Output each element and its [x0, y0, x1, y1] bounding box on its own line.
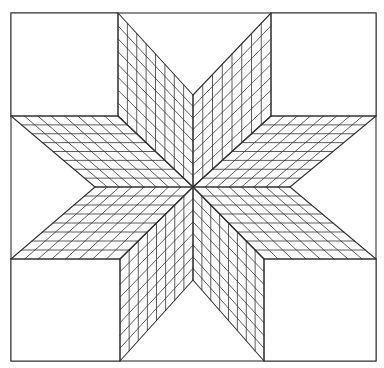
diamond-top-left-point [118, 13, 193, 187]
diamond-bottom-right-point [193, 187, 264, 361]
corner-square-top-left [11, 13, 118, 116]
diamond-right-lower-point [193, 187, 376, 259]
corner-square-bottom-left [11, 259, 120, 361]
diamond-right-upper-point [193, 116, 376, 187]
star-quilt-drawing [0, 0, 384, 368]
corner-square-bottom-right [264, 259, 376, 361]
diamond-bottom-left-point [120, 187, 193, 361]
corner-square-top-right [271, 13, 376, 116]
diamond-left-upper-point [11, 116, 193, 187]
quilt-figure: Eight-pointed star quilt pattern [0, 0, 384, 368]
